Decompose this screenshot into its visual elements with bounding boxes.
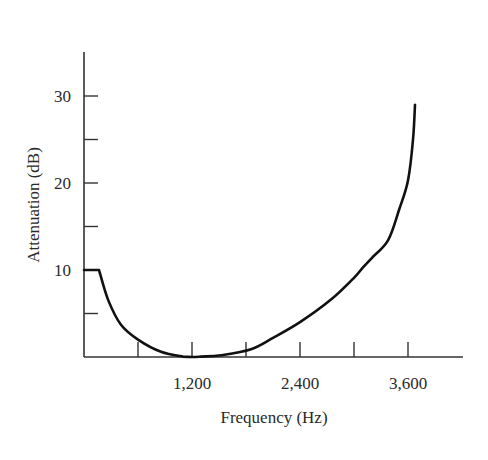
tick-labels: 1,2002,4003,600102030 — [54, 87, 427, 393]
x-axis-title: Frequency (Hz) — [220, 408, 327, 427]
x-tick-label: 3,600 — [389, 374, 427, 393]
x-tick-label: 2,400 — [281, 374, 319, 393]
y-tick-label: 20 — [54, 174, 71, 193]
y-tick-label: 30 — [54, 87, 71, 106]
y-axis-title: Attenuation (dB) — [24, 147, 43, 263]
axes — [84, 52, 463, 357]
axis-ticks — [84, 96, 408, 357]
chart-canvas: 1,2002,4003,600102030 Frequency (Hz) Att… — [0, 0, 488, 460]
attenuation-chart: 1,2002,4003,600102030 Frequency (Hz) Att… — [0, 0, 488, 460]
attenuation-curve — [84, 105, 415, 357]
x-tick-label: 1,200 — [173, 374, 211, 393]
y-tick-label: 10 — [54, 261, 71, 280]
